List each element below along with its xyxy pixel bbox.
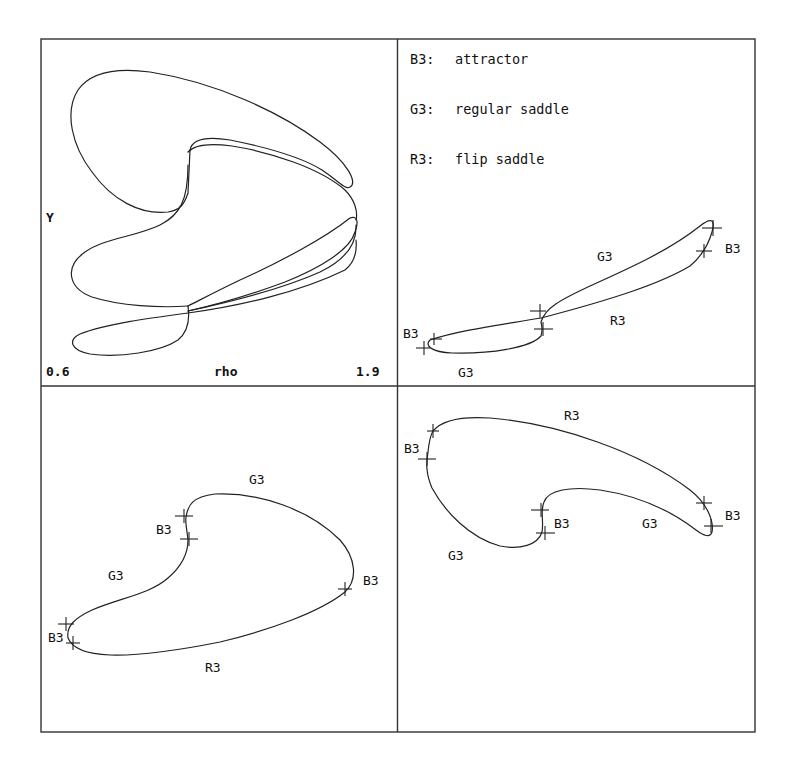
curve-bottom-lobe xyxy=(73,240,357,355)
x-axis-label: rho xyxy=(214,364,238,379)
label-g3-lower: G3 xyxy=(458,365,474,380)
legend-code-r3: R3: xyxy=(410,151,434,167)
saddle-markers xyxy=(418,424,723,540)
saddle-markers xyxy=(58,509,352,650)
curve-lower-band-2 xyxy=(188,225,356,311)
figure-canvas: Y 0.6 rho 1.9 B3: attractor G3: regular … xyxy=(0,0,793,771)
legend: B3: attractor G3: regular saddle R3: fli… xyxy=(410,51,569,167)
label-g3-mid: G3 xyxy=(642,516,658,531)
y-axis-label: Y xyxy=(46,210,54,225)
curve-lower-band-1 xyxy=(188,217,357,311)
x-axis-min: 0.6 xyxy=(46,364,70,379)
label-g3-top: G3 xyxy=(249,472,265,487)
label-b3-mid: B3 xyxy=(554,516,570,531)
legend-code-g3: G3: xyxy=(410,101,434,117)
figure: Y 0.6 rho 1.9 B3: attractor G3: regular … xyxy=(0,0,793,771)
legend-code-b3: B3: xyxy=(410,51,434,67)
curve-middle-band-outer xyxy=(188,144,357,220)
panel-top-right: B3: attractor G3: regular saddle R3: fli… xyxy=(403,51,741,380)
panel-bottom-right: R3 B3 B3 G3 B3 G3 xyxy=(404,408,741,563)
label-b3-left: B3 xyxy=(404,441,420,456)
label-b3-right: B3 xyxy=(725,508,741,523)
label-b3-right: B3 xyxy=(363,573,379,588)
label-r3-top: R3 xyxy=(564,408,580,423)
saddle-markers xyxy=(416,220,722,355)
legend-regular-saddle: regular saddle xyxy=(455,101,569,117)
label-b3-mid: B3 xyxy=(156,522,172,537)
label-r3: R3 xyxy=(610,313,626,328)
label-r3: R3 xyxy=(205,660,221,675)
label-b3-left: B3 xyxy=(48,630,64,645)
label-g3-upper: G3 xyxy=(597,249,613,264)
x-axis-max: 1.9 xyxy=(356,364,379,379)
curve-upper-lobe xyxy=(71,70,353,212)
legend-attractor: attractor xyxy=(455,51,528,67)
panel-bottom-left: G3 B3 G3 B3 B3 R3 xyxy=(48,472,379,675)
panel-top-left: Y 0.6 rho 1.9 xyxy=(46,70,379,379)
label-b3-right: B3 xyxy=(725,241,741,256)
panel-grid xyxy=(41,39,755,732)
curve-middle-left-lobe xyxy=(71,165,188,307)
label-b3-left: B3 xyxy=(403,326,419,341)
label-g3-bottom: G3 xyxy=(448,548,464,563)
label-g3-left: G3 xyxy=(108,568,124,583)
orbit-curve xyxy=(428,221,713,354)
legend-flip-saddle: flip saddle xyxy=(455,151,544,167)
